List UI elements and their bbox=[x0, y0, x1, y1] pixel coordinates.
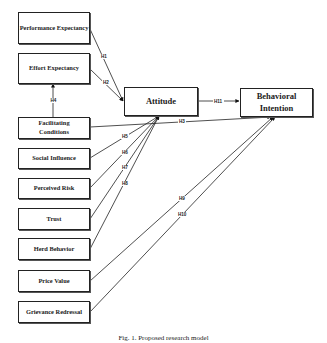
construct-label: Attitude bbox=[146, 96, 176, 107]
label-h7: H7 bbox=[122, 165, 128, 170]
construct-attitude: Attitude bbox=[124, 87, 198, 116]
construct-performance-expectancy: Performance Expectancy bbox=[18, 12, 90, 44]
label-h8: H8 bbox=[122, 181, 128, 186]
label-h9: H9 bbox=[179, 196, 185, 201]
label-h11: H11 bbox=[214, 99, 223, 104]
research-model-diagram: H1 H2 H4 H3 H5 H6 H7 H8 H9 H10 H11 Perfo… bbox=[0, 0, 327, 343]
label-h5: H5 bbox=[122, 134, 128, 139]
construct-trust: Trust bbox=[18, 208, 90, 230]
construct-label: Perceived Risk bbox=[34, 184, 75, 193]
construct-label: Performance Expectancy bbox=[20, 24, 89, 33]
figure-caption: Fig. 1. Proposed research model bbox=[0, 334, 327, 342]
construct-grievance-redressal: Grievance Redressal bbox=[18, 301, 90, 323]
construct-perceived-risk: Perceived Risk bbox=[18, 178, 90, 199]
construct-label: Trust bbox=[47, 215, 62, 224]
construct-label: Behavioral Intention bbox=[252, 91, 302, 114]
construct-facilitating-conditions: Facilitating Conditions bbox=[18, 117, 90, 139]
construct-behavioral-intention: Behavioral Intention bbox=[240, 88, 313, 117]
construct-effort-expectancy: Effort Expectancy bbox=[18, 53, 90, 84]
label-h2: H2 bbox=[103, 80, 109, 85]
path-h1 bbox=[90, 29, 123, 101]
construct-label: Social Influence bbox=[32, 154, 76, 163]
construct-label: Facilitating Conditions bbox=[34, 119, 74, 136]
label-h10: H10 bbox=[178, 212, 187, 217]
construct-label: Herd Behavior bbox=[34, 245, 75, 254]
construct-label: Price Value bbox=[38, 277, 69, 286]
construct-social-influence: Social Influence bbox=[18, 148, 90, 169]
construct-price-value: Price Value bbox=[18, 270, 90, 292]
label-h6: H6 bbox=[122, 150, 128, 155]
label-h1: H1 bbox=[101, 54, 107, 59]
construct-herd-behavior: Herd Behavior bbox=[18, 238, 90, 260]
label-h3: H3 bbox=[179, 119, 185, 124]
construct-label: Grievance Redressal bbox=[26, 308, 82, 317]
construct-label: Effort Expectancy bbox=[29, 64, 79, 73]
label-h4: H4 bbox=[51, 98, 57, 103]
